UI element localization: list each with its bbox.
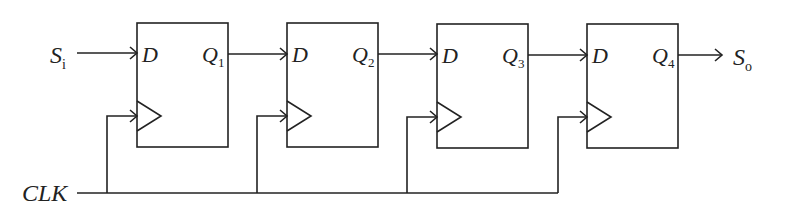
clock-triangle-3	[437, 102, 461, 132]
ff2-q-label: Q2	[352, 42, 374, 70]
input-label: Si	[50, 42, 66, 72]
clock-label: CLK	[22, 180, 69, 206]
ff3-d-label: D	[441, 43, 458, 68]
ff4-d-label: D	[591, 43, 608, 68]
ff1-q-label: Q1	[202, 42, 224, 70]
ff2-d-label: D	[291, 42, 308, 67]
clk-branch-1	[107, 116, 137, 193]
clk-branch-4	[558, 117, 587, 193]
clock-triangle-2	[287, 101, 311, 131]
clk-branch-3	[407, 117, 437, 193]
clock-triangle-4	[587, 102, 611, 132]
shift-register-diagram: Si CLK So D Q1 D Q2 D Q3 D Q4	[0, 0, 787, 213]
ff4-q-label: Q4	[652, 43, 675, 71]
clock-triangle-1	[137, 101, 161, 131]
ff3-q-label: Q3	[502, 43, 524, 71]
output-label: So	[733, 44, 752, 74]
clk-branch-2	[257, 116, 287, 193]
ff1-d-label: D	[141, 42, 158, 67]
